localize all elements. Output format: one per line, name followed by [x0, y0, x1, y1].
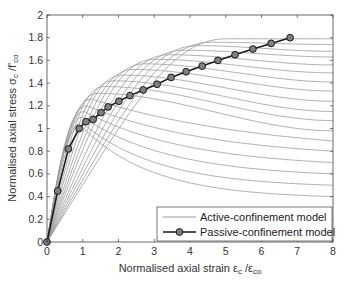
passive-marker — [214, 57, 221, 64]
passive-marker — [183, 68, 190, 75]
passive-marker — [65, 146, 72, 153]
passive-marker — [83, 118, 90, 125]
y-tick-label: 0.6 — [28, 167, 43, 179]
x-tick-label: 8 — [330, 245, 336, 257]
passive-marker — [268, 40, 275, 47]
passive-marker — [140, 87, 147, 94]
passive-marker — [105, 104, 112, 111]
legend-passive-label: Passive-confinement model — [200, 226, 335, 238]
y-tick-label: 1.8 — [28, 31, 43, 43]
passive-marker — [98, 109, 105, 116]
passive-marker — [127, 92, 134, 99]
stress-strain-chart: 012345678 00.20.40.60.811.21.41.61.82 No… — [0, 0, 349, 284]
x-tick-label: 1 — [80, 245, 86, 257]
x-axis-label: Normalised axial strain εc /εco — [119, 262, 262, 276]
x-tick-label: 0 — [44, 245, 50, 257]
legend-active-label: Active-confinement model — [200, 211, 327, 223]
passive-marker — [115, 98, 122, 105]
passive-marker — [250, 46, 257, 53]
x-tick-labels: 012345678 — [44, 245, 336, 257]
x-tick-label: 3 — [151, 245, 157, 257]
y-tick-label: 2 — [37, 9, 43, 21]
x-tick-label: 4 — [187, 245, 193, 257]
x-tick-label: 2 — [116, 245, 122, 257]
passive-marker — [287, 34, 294, 41]
y-tick-label: 0.2 — [28, 213, 43, 225]
x-tick-label: 7 — [294, 245, 300, 257]
passive-marker — [232, 51, 239, 58]
x-tick-label: 6 — [259, 245, 265, 257]
x-tick-label: 5 — [223, 245, 229, 257]
passive-marker — [54, 188, 61, 195]
passive-marker — [90, 116, 97, 123]
y-tick-label: 0.8 — [28, 145, 43, 157]
passive-marker — [154, 81, 161, 88]
y-axis-label: Normalised axial stress σc /f'co — [6, 54, 20, 202]
y-tick-label: 0 — [37, 236, 43, 248]
y-tick-label: 1.6 — [28, 54, 43, 66]
passive-marker — [168, 74, 175, 81]
y-tick-labels: 00.20.40.60.811.21.41.61.82 — [28, 9, 43, 248]
y-tick-label: 1.4 — [28, 77, 43, 89]
legend: Active-confinement model Passive-confine… — [157, 207, 335, 241]
y-tick-label: 1.2 — [28, 99, 43, 111]
passive-marker — [76, 125, 83, 132]
y-tick-label: 1 — [37, 122, 43, 134]
legend-passive-marker — [176, 229, 183, 236]
passive-marker — [199, 63, 206, 70]
y-tick-label: 0.4 — [28, 190, 43, 202]
